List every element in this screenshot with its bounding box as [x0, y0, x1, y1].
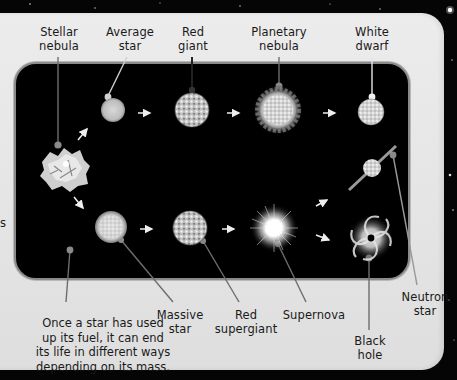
label-supernova: Supernova: [279, 308, 349, 322]
label-stellar-nebula: Stellar nebula: [30, 25, 88, 53]
planetary-nebula-icon: [253, 85, 303, 135]
cropped-left-text: s: [0, 216, 6, 230]
neutron-star-icon: [349, 146, 396, 190]
average-star-icon: [101, 98, 125, 122]
label-average-star: Average star: [101, 25, 159, 53]
pointer-massive-star: [121, 240, 173, 302]
pointer-supernova: [278, 244, 306, 302]
star-lifecycle-diagram: Stellar nebula Average star Red giant Pl…: [0, 0, 457, 380]
massive-star-icon: [95, 211, 127, 243]
pointer-red-supergiant: [203, 241, 239, 302]
label-black-hole: Black hole: [345, 334, 395, 362]
explanation-note: Once a star has used up its fuel, it can…: [13, 316, 193, 374]
pointer-neutron-star: [393, 155, 417, 285]
supernova-icon: [250, 204, 298, 252]
red-giant-icon: [175, 93, 209, 127]
black-hole-icon: [348, 215, 394, 261]
label-red-giant: Red giant: [168, 25, 218, 53]
label-red-supergiant: Red supergiant: [211, 308, 281, 336]
red-supergiant-icon: [173, 211, 207, 245]
label-neutron-star: Neutron star: [395, 290, 455, 318]
stellar-nebula-icon: [40, 148, 90, 192]
label-white-dwarf: White dwarf: [345, 25, 399, 53]
label-planetary-nebula: Planetary nebula: [244, 25, 314, 53]
pointer-average-star: [108, 57, 127, 96]
pointer-note: [66, 250, 70, 302]
white-dwarf-icon: [358, 99, 384, 125]
